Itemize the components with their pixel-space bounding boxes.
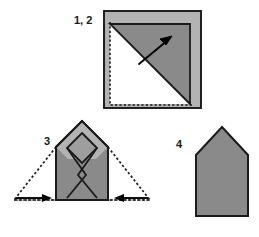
panel-4-body xyxy=(196,127,248,216)
origami-diagram: 1, 2 xyxy=(0,0,259,237)
panel-1-2: 1, 2 xyxy=(74,11,201,108)
panel-3-label: 3 xyxy=(44,135,50,147)
diagram-canvas: 1, 2 xyxy=(0,0,259,237)
panel-4: 4 xyxy=(176,127,248,216)
panel-1-2-label: 1, 2 xyxy=(74,14,92,26)
panel-3: 3 xyxy=(14,121,150,202)
panel-4-label: 4 xyxy=(176,138,183,150)
panel-3-right-wing-dotted xyxy=(108,147,150,200)
panel-3-left-wing-dotted xyxy=(14,147,56,200)
